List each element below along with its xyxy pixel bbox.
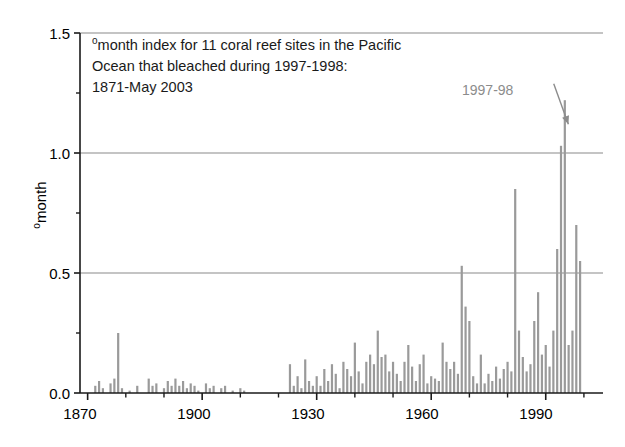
bar (316, 376, 318, 393)
bar (388, 371, 390, 393)
bar (151, 386, 153, 393)
bar (289, 364, 291, 393)
bar (224, 386, 226, 393)
chart-title-line-3: 1871-May 2003 (92, 77, 401, 98)
bar (109, 383, 111, 393)
bar (499, 379, 501, 393)
bar (457, 374, 459, 393)
bar (487, 374, 489, 393)
bar (537, 292, 539, 393)
bar (568, 345, 570, 393)
xtick-label-1900: 1900 (164, 405, 224, 422)
bar (579, 261, 581, 393)
ytick-label-1_5: 1.5 (26, 25, 70, 42)
bar (445, 362, 447, 393)
bar (319, 386, 321, 393)
bar (213, 386, 215, 393)
bar (171, 386, 173, 393)
bar (464, 307, 466, 393)
bar (117, 333, 119, 393)
bar (365, 362, 367, 393)
xtick-label-1870: 1870 (50, 405, 110, 422)
bar (480, 355, 482, 393)
bar (472, 376, 474, 393)
y-axis-label-text: month (32, 181, 49, 223)
bar (503, 369, 505, 393)
bar (396, 374, 398, 393)
bar (522, 357, 524, 393)
bar (148, 379, 150, 393)
bar (506, 362, 508, 393)
bar (461, 266, 463, 393)
bar (98, 381, 100, 393)
xtick-label-1930: 1930 (278, 405, 338, 422)
bar (434, 379, 436, 393)
bar (564, 100, 566, 393)
y-axis-label: omonth (31, 159, 49, 251)
xtick-label-1990: 1990 (506, 405, 566, 422)
bar (392, 362, 394, 393)
bar (113, 379, 115, 393)
bar (422, 355, 424, 393)
bar (323, 369, 325, 393)
bar (529, 364, 531, 393)
bar (178, 386, 180, 393)
bar (312, 386, 314, 393)
bar (94, 386, 96, 393)
bar (571, 331, 573, 393)
chart-title-line-1-text: month index for 11 coral reef sites in t… (98, 37, 402, 53)
bar (575, 225, 577, 393)
bar (350, 376, 352, 393)
bar (331, 364, 333, 393)
bar (346, 369, 348, 393)
bar (442, 343, 444, 393)
y-axis-label-degree: o (31, 223, 42, 229)
bar (560, 146, 562, 393)
bar (384, 355, 386, 393)
bar (449, 369, 451, 393)
bar (514, 189, 516, 393)
chart-title-line-2: Ocean that bleached during 1997-1998: (92, 56, 401, 77)
bar (407, 345, 409, 393)
bar (182, 381, 184, 393)
bar (548, 367, 550, 393)
xtick-label-1960: 1960 (392, 405, 452, 422)
bar (403, 362, 405, 393)
bar (308, 381, 310, 393)
bar (167, 381, 169, 393)
chart-title: omonth index for 11 coral reef sites in … (92, 30, 401, 98)
bar (293, 386, 295, 393)
bar (541, 355, 543, 393)
bar (426, 383, 428, 393)
bar (377, 331, 379, 393)
bar (380, 357, 382, 393)
bar (400, 381, 402, 393)
bar (304, 359, 306, 393)
bar (491, 381, 493, 393)
annotation-1997-98: 1997-98 (462, 82, 513, 98)
bar (369, 355, 371, 393)
bar (526, 371, 528, 393)
bar (468, 321, 470, 393)
bar (205, 383, 207, 393)
bar (358, 371, 360, 393)
bar (342, 362, 344, 393)
bar (510, 371, 512, 393)
bar (190, 383, 192, 393)
bar (411, 367, 413, 393)
bar (484, 383, 486, 393)
bar (533, 321, 535, 393)
bar (335, 374, 337, 393)
bar (518, 331, 520, 393)
chart-figure: 1.5 1.0 0.5 0.0 omonth 1870 1900 1930 19… (0, 0, 625, 447)
bar (136, 386, 138, 393)
bar (438, 381, 440, 393)
bar (430, 376, 432, 393)
bar (155, 383, 157, 393)
bar (415, 381, 417, 393)
bar (373, 364, 375, 393)
bar (193, 386, 195, 393)
bar (552, 331, 554, 393)
bar (545, 345, 547, 393)
bar (354, 343, 356, 393)
